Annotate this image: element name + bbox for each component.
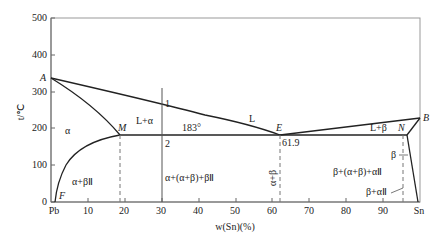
point-1: 1 [165, 98, 170, 109]
point-F: F [58, 190, 66, 201]
y-tick-500: 500 [32, 12, 47, 23]
y-tick-300: 300 [32, 86, 47, 97]
x-end-pb: Pb [49, 205, 60, 216]
region-L-alpha: L+α [136, 115, 154, 126]
region-hypoeutectic: α+(α+β)+βⅡ [165, 172, 214, 184]
x-tick-10: 10 [83, 205, 93, 216]
region-hypereutectic: β+(α+β)+αⅡ [333, 166, 382, 178]
phase-lines [51, 78, 420, 202]
point-A: A [39, 72, 47, 83]
eutectic-comp-label: 61.9 [282, 137, 300, 148]
x-tick-50: 50 [230, 205, 240, 216]
region-L: L [249, 113, 255, 124]
point-E: E [275, 122, 282, 133]
x-tick-30: 30 [156, 205, 166, 216]
phase-diagram: 0 100 200 300 400 500 Pb 10 20 30 40 50 … [0, 0, 443, 241]
y-tick-100: 100 [32, 159, 47, 170]
x-tick-70: 70 [304, 205, 314, 216]
x-axis-title: w(Sn)(%) [215, 221, 254, 233]
beta-alpha2-leader [391, 188, 403, 193]
y-ticks [51, 18, 55, 202]
region-beta: β [391, 149, 396, 160]
solidus-BN [407, 118, 420, 135]
point-N: N [397, 122, 406, 133]
region-beta-alpha2: β+αⅡ [366, 186, 387, 197]
y-tick-0: 0 [42, 196, 47, 207]
region-alpha: α [65, 125, 71, 136]
y-axis-title: t/℃ [15, 104, 26, 121]
point-2: 2 [165, 138, 170, 149]
x-tick-40: 40 [193, 205, 203, 216]
y-tick-200: 200 [32, 122, 47, 133]
point-M: M [117, 122, 127, 133]
solvus-N-Sn [407, 135, 418, 202]
x-tick-80: 80 [341, 205, 351, 216]
region-eutectic: α+β [267, 170, 278, 186]
x-ticks [88, 198, 383, 202]
region-L-beta: L+β [370, 122, 387, 133]
x-end-sn: Sn [414, 205, 425, 216]
x-tick-60: 60 [267, 205, 277, 216]
y-tick-400: 400 [32, 49, 47, 60]
point-B: B [423, 112, 429, 123]
x-tick-90: 90 [378, 205, 388, 216]
region-alpha-beta2: α+βⅡ [72, 176, 93, 187]
x-tick-20: 20 [119, 205, 129, 216]
eutectic-temp-label: 183° [182, 122, 201, 133]
